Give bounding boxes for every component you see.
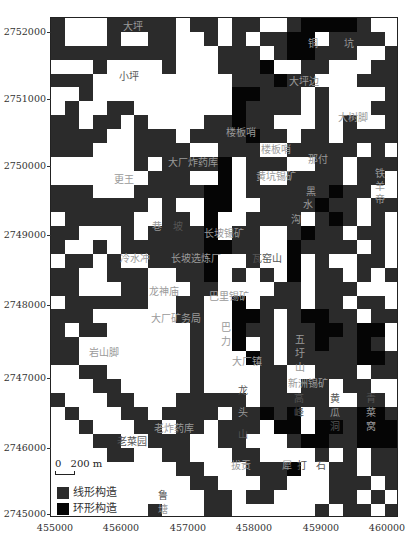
empty-cell: [204, 46, 218, 60]
empty-cell: [385, 226, 398, 240]
linear-structure-cell: [121, 268, 135, 282]
ring-structure-cell: [301, 18, 315, 32]
linear-structure-cell: [343, 407, 357, 421]
place-label: 峰: [294, 407, 304, 418]
place-label: 沟: [291, 214, 301, 225]
linear-structure-cell: [162, 129, 176, 143]
ring-structure-cell: [274, 420, 288, 434]
ring-structure-cell: [371, 351, 385, 365]
linear-structure-cell: [357, 171, 371, 185]
linear-structure-cell: [134, 420, 148, 434]
empty-cell: [176, 490, 190, 504]
linear-structure-cell: [329, 240, 343, 254]
linear-structure-cell: [232, 143, 246, 157]
ring-structure-cell: [315, 434, 329, 448]
linear-structure-cell: [107, 296, 121, 310]
place-label: 窝: [366, 421, 376, 432]
linear-structure-cell: [121, 198, 135, 212]
linear-structure-cell: [162, 434, 176, 448]
linear-structure-cell: [287, 434, 301, 448]
linear-structure-cell: [329, 296, 343, 310]
ring-structure-cell: [218, 198, 232, 212]
linear-structure-cell: [357, 157, 371, 171]
linear-structure-cell: [121, 240, 135, 254]
empty-cell: [176, 101, 190, 115]
empty-cell: [385, 393, 398, 407]
empty-cell: [260, 504, 274, 517]
linear-structure-cell: [148, 254, 162, 268]
empty-cell: [93, 101, 107, 115]
empty-cell: [51, 254, 65, 268]
ring-structure-cell: [218, 240, 232, 254]
linear-structure-cell: [65, 198, 79, 212]
empty-cell: [190, 198, 204, 212]
empty-cell: [107, 129, 121, 143]
linear-structure-cell: [329, 157, 343, 171]
empty-cell: [65, 323, 79, 337]
linear-structure-cell: [176, 393, 190, 407]
linear-structure-cell: [107, 198, 121, 212]
empty-cell: [134, 365, 148, 379]
linear-structure-cell: [301, 129, 315, 143]
linear-structure-cell: [162, 32, 176, 46]
empty-cell: [246, 268, 260, 282]
linear-structure-cell: [246, 490, 260, 504]
place-label: 大厂镇: [232, 356, 262, 367]
linear-structure-cell: [148, 46, 162, 60]
empty-cell: [357, 198, 371, 212]
linear-structure-cell: [107, 268, 121, 282]
empty-cell: [190, 32, 204, 46]
linear-structure-cell: [385, 129, 398, 143]
linear-structure-cell: [260, 198, 274, 212]
empty-cell: [121, 115, 135, 129]
linear-structure-cell: [176, 185, 190, 199]
empty-cell: [385, 143, 398, 157]
empty-cell: [134, 393, 148, 407]
linear-structure-cell: [260, 476, 274, 490]
empty-cell: [315, 476, 329, 490]
linear-structure-cell: [79, 129, 93, 143]
empty-cell: [274, 434, 288, 448]
empty-cell: [93, 407, 107, 421]
linear-structure-cell: [371, 490, 385, 504]
linear-structure-cell: [79, 309, 93, 323]
ring-structure-cell: [315, 198, 329, 212]
ring-structure-cell: [232, 101, 246, 115]
linear-structure-cell: [93, 46, 107, 60]
linear-structure-cell: [51, 393, 65, 407]
empty-cell: [51, 434, 65, 448]
empty-cell: [190, 448, 204, 462]
empty-cell: [218, 268, 232, 282]
linear-structure-cell: [93, 115, 107, 129]
scale-label: 200 m: [71, 458, 103, 469]
place-label: 大树脚: [338, 112, 368, 123]
empty-cell: [162, 74, 176, 88]
place-label: 塘: [158, 504, 168, 515]
linear-structure-cell: [232, 32, 246, 46]
ring-structure-cell: [260, 60, 274, 74]
linear-structure-cell: [260, 101, 274, 115]
linear-structure-cell: [260, 379, 274, 393]
empty-cell: [162, 462, 176, 476]
linear-structure-cell: [51, 282, 65, 296]
linear-structure-cell: [176, 171, 190, 185]
linear-structure-cell: [371, 296, 385, 310]
linear-structure-cell: [190, 18, 204, 32]
ring-structure-cell: [232, 337, 246, 351]
linear-structure-cell: [190, 393, 204, 407]
linear-structure-cell: [260, 185, 274, 199]
linear-structure-cell: [343, 309, 357, 323]
linear-structure-cell: [107, 448, 121, 462]
linear-structure-cell: [51, 74, 65, 88]
empty-cell: [162, 296, 176, 310]
empty-cell: [134, 87, 148, 101]
linear-structure-cell: [190, 282, 204, 296]
linear-structure-cell: [93, 198, 107, 212]
linear-structure-cell: [371, 448, 385, 462]
linear-structure-cell: [274, 407, 288, 421]
empty-cell: [93, 18, 107, 32]
linear-structure-cell: [204, 129, 218, 143]
linear-structure-cell: [190, 365, 204, 379]
linear-structure-cell: [51, 226, 65, 240]
empty-cell: [176, 60, 190, 74]
